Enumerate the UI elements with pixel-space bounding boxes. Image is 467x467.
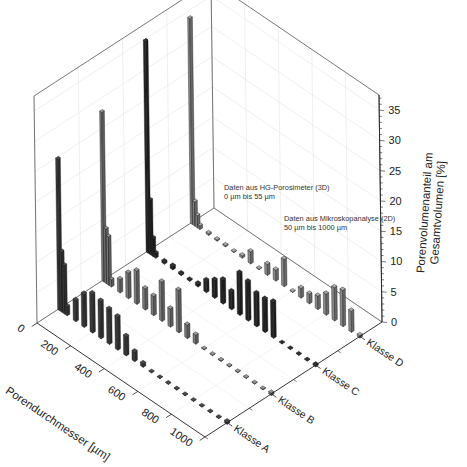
bar (142, 285, 148, 310)
bar (188, 16, 195, 225)
bar (168, 306, 174, 328)
bar (281, 256, 287, 287)
bar (159, 279, 165, 322)
class-tick-label: Klasse A (232, 422, 273, 455)
x-tick-label: 800 (140, 406, 162, 426)
bar (240, 252, 245, 258)
bar (252, 380, 257, 384)
bar (248, 248, 254, 264)
bar (245, 278, 251, 321)
bar (323, 291, 329, 316)
bar (199, 403, 204, 407)
bar (349, 308, 355, 333)
bar (174, 386, 179, 390)
bar (106, 306, 112, 345)
x-tick-label: 0 (15, 321, 27, 334)
bar (305, 357, 310, 361)
bar (273, 267, 278, 281)
bar (220, 276, 226, 304)
bar (237, 270, 243, 316)
z-tick-label: 35 (388, 104, 400, 116)
bar (288, 346, 293, 350)
bar (140, 360, 145, 367)
bar (117, 276, 123, 293)
class-tick-label: Klasse C (320, 364, 362, 398)
bar (115, 313, 121, 350)
bar (265, 261, 270, 275)
axis-frame (34, 0, 382, 323)
bar (218, 357, 223, 361)
bar (151, 293, 157, 316)
bar (187, 277, 192, 282)
x-tick-label: 200 (39, 337, 61, 357)
bar (214, 236, 219, 241)
bar (81, 291, 87, 328)
bar (307, 291, 312, 304)
annotation-mikroskopanalyse: Daten aus Mikroskopanalyse (2D) 50 µm bi… (284, 214, 395, 232)
bar (123, 333, 129, 356)
x-axis-title: Porendurchmesser [µm] (4, 384, 113, 463)
bar (298, 285, 303, 298)
z-tick-label: 0 (391, 316, 397, 328)
bar (216, 415, 221, 419)
bar (65, 304, 70, 316)
bar (149, 369, 154, 373)
class-tick-label: Klasse B (276, 393, 317, 426)
bar (332, 284, 338, 321)
annotation-hg-porosimeter: Daten aus HG-Porosimeter (3D) 0 µm bis 5… (224, 183, 330, 201)
bar (98, 298, 104, 339)
bar (132, 348, 137, 361)
z-tick-label: 10 (390, 255, 402, 267)
x-tick-label: 1000 (168, 425, 195, 449)
bar (134, 268, 140, 305)
bar (340, 287, 346, 327)
x-tick-label: 600 (106, 383, 128, 403)
bar (73, 297, 79, 322)
bar (254, 290, 260, 327)
bar (229, 288, 235, 310)
bar (270, 299, 276, 339)
x-tick-label: 400 (72, 360, 94, 380)
z-tick-label: 5 (391, 286, 397, 298)
bar (231, 248, 236, 252)
bar (206, 230, 211, 235)
bar (315, 293, 321, 310)
bar (154, 250, 159, 258)
bar (162, 258, 167, 264)
bar (126, 270, 132, 299)
bar (210, 352, 215, 356)
z-tick-label: 20 (389, 195, 401, 207)
bar (262, 296, 268, 333)
bar (208, 409, 213, 413)
bar (243, 374, 248, 378)
z-tick-label: 25 (389, 165, 401, 177)
bar (260, 386, 265, 390)
bar (90, 290, 96, 333)
bar (195, 281, 200, 288)
bar (166, 380, 171, 384)
bar (185, 322, 191, 339)
bar (182, 392, 187, 396)
bar-chart-3d: 02004006008001000Porendurchmesser [µm]Kl… (0, 0, 467, 467)
bar (170, 263, 175, 270)
bar (296, 351, 301, 355)
bar (193, 332, 198, 345)
bar (212, 277, 218, 299)
z-tick-label: 30 (389, 134, 401, 146)
bar (227, 363, 232, 367)
class-tick-label: Klasse D (365, 336, 407, 370)
bar (176, 287, 182, 333)
bar (204, 277, 210, 293)
bar (109, 277, 114, 287)
